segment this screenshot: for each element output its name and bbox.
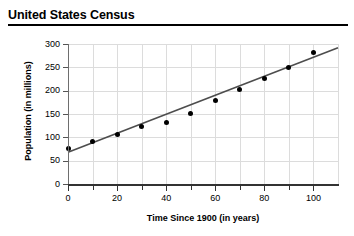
title-block: United States Census: [8, 8, 348, 28]
gridline-vertical: [338, 44, 339, 184]
chart-figure: United States Census Population (in mill…: [0, 0, 354, 236]
x-tick-mark-major: [215, 186, 216, 191]
y-tick-mark: [63, 114, 68, 115]
data-points-layer: [68, 44, 338, 184]
x-axis-title: Time Since 1900 (in years): [68, 213, 338, 223]
x-tick-mark-major: [166, 186, 167, 191]
x-tick-mark-major: [313, 186, 314, 191]
y-tick-mark: [63, 67, 68, 68]
y-tick-mark: [63, 91, 68, 92]
x-tick-mark-major: [264, 186, 265, 191]
y-tick-label: 150: [20, 110, 60, 119]
x-tick-label: 0: [48, 194, 88, 203]
data-point: [139, 124, 144, 129]
y-tick-mark: [63, 161, 68, 162]
data-point: [286, 65, 291, 70]
x-tick-mark-major: [68, 186, 69, 191]
y-tick-label: 100: [20, 133, 60, 142]
y-tick-mark: [63, 184, 68, 185]
x-tick-mark-minor: [240, 186, 241, 190]
y-tick-mark: [63, 137, 68, 138]
data-point: [115, 132, 120, 137]
x-tick-mark-minor: [289, 186, 290, 190]
page-title: United States Census: [8, 8, 348, 22]
plot-area: [68, 44, 338, 184]
x-tick-label: 40: [146, 194, 186, 203]
data-point: [262, 76, 267, 81]
data-point: [213, 98, 218, 103]
y-tick-label: 300: [20, 40, 60, 49]
x-tick-label: 80: [244, 194, 284, 203]
x-tick-mark-minor: [191, 186, 192, 190]
x-tick-label: 60: [195, 194, 235, 203]
x-tick-mark-minor: [93, 186, 94, 190]
x-axis-line: [68, 184, 339, 186]
data-point: [311, 50, 316, 55]
x-tick-label: 100: [293, 194, 333, 203]
x-tick-label: 20: [97, 194, 137, 203]
x-tick-mark-major: [117, 186, 118, 191]
data-point: [90, 139, 95, 144]
y-tick-label: 200: [20, 86, 60, 95]
data-point: [237, 87, 242, 92]
data-point: [164, 120, 169, 125]
y-tick-label: 0: [20, 180, 60, 189]
y-axis-line: [68, 44, 69, 185]
y-tick-label: 250: [20, 63, 60, 72]
data-point: [188, 111, 193, 116]
y-tick-mark: [63, 44, 68, 45]
x-tick-mark-minor: [142, 186, 143, 190]
title-underline-rule: [8, 24, 348, 26]
y-tick-label: 50: [20, 156, 60, 165]
